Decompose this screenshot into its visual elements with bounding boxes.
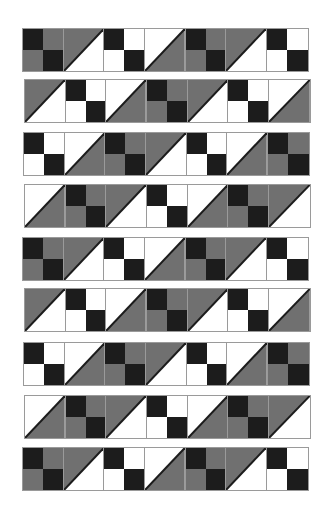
half-square-triangle-block: [188, 185, 229, 227]
half-square-triangle-block: [106, 289, 147, 331]
patch-square: [228, 206, 248, 227]
patch-square: [287, 238, 307, 259]
four-patch-block: [147, 396, 188, 438]
half-square-triangle-block: [106, 185, 147, 227]
patch-square: [125, 133, 145, 154]
patch-square: [288, 343, 308, 364]
four-patch-block: [186, 29, 227, 71]
patch-square: [43, 448, 63, 469]
patch-square: [267, 448, 287, 469]
patch-square: [44, 133, 64, 154]
patch-square: [43, 50, 63, 71]
half-square-triangle-block: [64, 238, 105, 280]
patch-square: [105, 154, 125, 175]
patch-square: [66, 101, 86, 122]
patch-square: [44, 364, 64, 385]
patch-square: [24, 364, 44, 385]
patch-square: [86, 80, 106, 101]
patch-square: [124, 469, 144, 490]
patch-square: [147, 101, 167, 122]
patch-square: [44, 154, 64, 175]
patch-square: [228, 101, 248, 122]
half-square-triangle-block: [226, 448, 267, 490]
patch-square: [186, 259, 206, 280]
patch-square: [167, 80, 187, 101]
half-square-triangle-block: [269, 396, 310, 438]
patch-square: [105, 133, 125, 154]
quilt-row-7: [23, 342, 310, 386]
patch-square: [186, 448, 206, 469]
patch-square: [206, 29, 226, 50]
half-square-triangle-block: [226, 29, 267, 71]
half-square-triangle-block: [269, 289, 310, 331]
patch-square: [105, 364, 125, 385]
four-patch-block: [187, 343, 228, 385]
patch-square: [248, 185, 268, 206]
patch-square: [187, 133, 207, 154]
quilt-row-4: [24, 184, 311, 228]
four-patch-block: [186, 448, 227, 490]
patch-square: [228, 417, 248, 438]
patch-square: [248, 310, 268, 331]
patch-square: [104, 50, 124, 71]
patch-square: [44, 343, 64, 364]
four-patch-block: [268, 133, 309, 175]
patch-square: [147, 396, 167, 417]
half-square-triangle-block: [146, 343, 187, 385]
half-square-triangle-block: [145, 29, 186, 71]
patch-square: [267, 259, 287, 280]
half-square-triangle-block: [227, 133, 268, 175]
four-patch-block: [228, 396, 269, 438]
patch-square: [186, 469, 206, 490]
four-patch-block: [268, 343, 309, 385]
four-patch-block: [66, 289, 107, 331]
patch-square: [125, 343, 145, 364]
four-patch-block: [147, 185, 188, 227]
half-square-triangle-block: [65, 133, 106, 175]
patch-square: [206, 50, 226, 71]
four-patch-block: [105, 343, 146, 385]
patch-square: [147, 289, 167, 310]
four-patch-block: [66, 80, 107, 122]
patch-square: [124, 238, 144, 259]
half-square-triangle-block: [146, 133, 187, 175]
patch-square: [187, 364, 207, 385]
patch-square: [104, 448, 124, 469]
quilt-row-5: [22, 237, 309, 281]
patch-square: [66, 289, 86, 310]
patch-square: [268, 154, 288, 175]
patch-square: [206, 469, 226, 490]
patch-square: [125, 364, 145, 385]
four-patch-block: [66, 185, 107, 227]
quilt-row-3: [23, 132, 310, 176]
four-patch-block: [24, 343, 65, 385]
patch-square: [104, 238, 124, 259]
patch-square: [186, 50, 206, 71]
four-patch-block: [23, 448, 64, 490]
patch-square: [124, 29, 144, 50]
patch-square: [43, 238, 63, 259]
patch-square: [206, 448, 226, 469]
patch-square: [167, 417, 187, 438]
patch-square: [228, 185, 248, 206]
patch-square: [86, 396, 106, 417]
patch-square: [267, 469, 287, 490]
patch-square: [66, 206, 86, 227]
patch-square: [66, 310, 86, 331]
patch-square: [248, 80, 268, 101]
patch-square: [207, 154, 227, 175]
patch-square: [267, 50, 287, 71]
patch-square: [147, 417, 167, 438]
patch-square: [86, 101, 106, 122]
patch-square: [248, 101, 268, 122]
patch-square: [287, 448, 307, 469]
half-square-triangle-block: [188, 80, 229, 122]
four-patch-block: [104, 238, 145, 280]
four-patch-block: [228, 185, 269, 227]
patch-square: [288, 154, 308, 175]
patch-square: [66, 417, 86, 438]
patch-square: [23, 469, 43, 490]
patch-square: [207, 133, 227, 154]
patch-square: [228, 310, 248, 331]
patch-square: [43, 259, 63, 280]
